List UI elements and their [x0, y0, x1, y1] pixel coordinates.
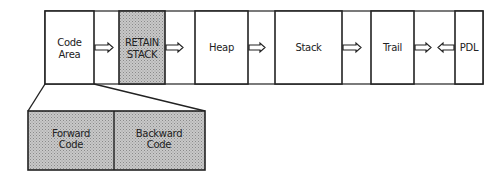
code-area-box: Code Area — [45, 11, 94, 84]
memory-layout-diagram: Code Area RETAIN STACK Heap Stack Trail … — [0, 0, 493, 175]
heap-label: Heap — [209, 42, 234, 53]
pdl-label: PDL — [460, 42, 479, 53]
backward-code-label-2: Code — [147, 139, 172, 150]
expansion-line-right — [94, 84, 205, 111]
forward-code-label-1: Forward — [52, 128, 90, 139]
code-area-detail: Forward Code Backward Code — [28, 111, 205, 170]
heap-box: Heap — [195, 11, 248, 84]
code-area-label-2: Area — [59, 49, 81, 60]
stack-label: Stack — [295, 42, 322, 53]
pdl-box: PDL — [455, 11, 483, 84]
retain-stack-box: RETAIN STACK — [119, 11, 165, 84]
forward-code-label-2: Code — [59, 139, 84, 150]
retain-stack-label-2: STACK — [127, 49, 158, 60]
trail-box: Trail — [371, 11, 414, 84]
retain-stack-label-1: RETAIN — [125, 37, 159, 48]
expansion-line-left — [28, 84, 45, 111]
backward-code-label-1: Backward — [136, 128, 182, 139]
stack-box: Stack — [275, 11, 342, 84]
trail-label: Trail — [382, 42, 402, 53]
code-area-label-1: Code — [57, 37, 82, 48]
